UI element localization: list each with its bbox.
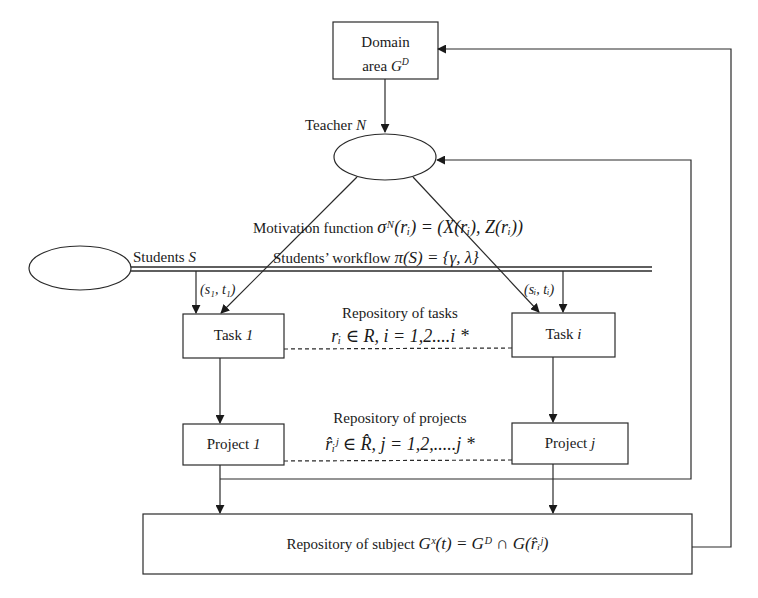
project-1-text: Project bbox=[207, 436, 253, 452]
teacher-symbol: N bbox=[356, 117, 366, 133]
domain-line2-text: area bbox=[362, 58, 391, 74]
edge-label-s1-t1: (s₁, t₁) bbox=[200, 283, 235, 297]
students-label-text: Students bbox=[133, 249, 188, 265]
feedback-subject-to-domain bbox=[438, 49, 731, 547]
domain-superscript: D bbox=[402, 56, 409, 67]
arrow-teacher-to-task1 bbox=[221, 177, 357, 313]
domain-line2: area GD bbox=[333, 52, 438, 76]
task-1-label: Task 1 bbox=[183, 328, 284, 343]
subject-formula: Gˣ(t) = Gᴰ ∩ G(r̂ᵢʲ) bbox=[419, 534, 549, 553]
workflow-label: Students’ workflow π(S) = {γ, λ} bbox=[273, 249, 479, 266]
workflow-text: Students’ workflow bbox=[273, 250, 394, 266]
teacher-label-text: Teacher bbox=[305, 117, 356, 133]
students-symbol: S bbox=[188, 249, 196, 265]
project-j-label: Project j bbox=[512, 436, 628, 451]
tasks-dashed-link bbox=[284, 348, 512, 349]
tasks-repository-title: Repository of tasks bbox=[300, 306, 500, 321]
teacher-label: Teacher N bbox=[305, 118, 366, 133]
workflow-formula: π(S) = {γ, λ} bbox=[394, 248, 478, 267]
teacher-ellipse bbox=[334, 134, 436, 180]
task-1-text: Task bbox=[214, 327, 246, 343]
tasks-repository-formula: rᵢ ∈ R, i = 1,2....i * bbox=[290, 327, 510, 345]
domain-symbol: G bbox=[391, 58, 402, 74]
arrow-teacher-to-taski bbox=[413, 177, 539, 312]
project-j-text: Project bbox=[545, 435, 591, 451]
subject-text: Repository of subject bbox=[286, 536, 418, 552]
projects-repository-formula: r̂ᵢʲ ∈ R̂, j = 1,2,.....j * bbox=[290, 435, 510, 453]
diagram-canvas bbox=[0, 0, 758, 598]
edge-label-si-ti: (sᵢ, tᵢ) bbox=[524, 283, 554, 297]
projects-dashed-link bbox=[284, 460, 512, 461]
task-1-index: 1 bbox=[246, 327, 254, 343]
students-label: Students S bbox=[133, 250, 196, 265]
domain-label: Domain area GD bbox=[333, 32, 438, 76]
motivation-function-label: Motivation function σᴺ(rᵢ) = (X(rᵢ), Z(r… bbox=[253, 218, 523, 236]
motivation-formula: σᴺ(rᵢ) = (X(rᵢ), Z(rᵢ)) bbox=[377, 217, 523, 237]
project-1-label: Project 1 bbox=[183, 437, 284, 452]
task-i-text: Task bbox=[545, 326, 577, 342]
project-1-index: 1 bbox=[253, 436, 261, 452]
students-ellipse bbox=[29, 246, 131, 290]
project-j-index: j bbox=[591, 435, 595, 451]
task-i-label: Task i bbox=[512, 327, 615, 342]
subject-label: Repository of subject Gˣ(t) = Gᴰ ∩ G(r̂ᵢ… bbox=[143, 535, 692, 552]
motivation-text: Motivation function bbox=[253, 220, 377, 236]
task-i-index: i bbox=[577, 326, 581, 342]
projects-repository-title: Repository of projects bbox=[300, 411, 500, 426]
domain-line1: Domain bbox=[333, 32, 438, 52]
